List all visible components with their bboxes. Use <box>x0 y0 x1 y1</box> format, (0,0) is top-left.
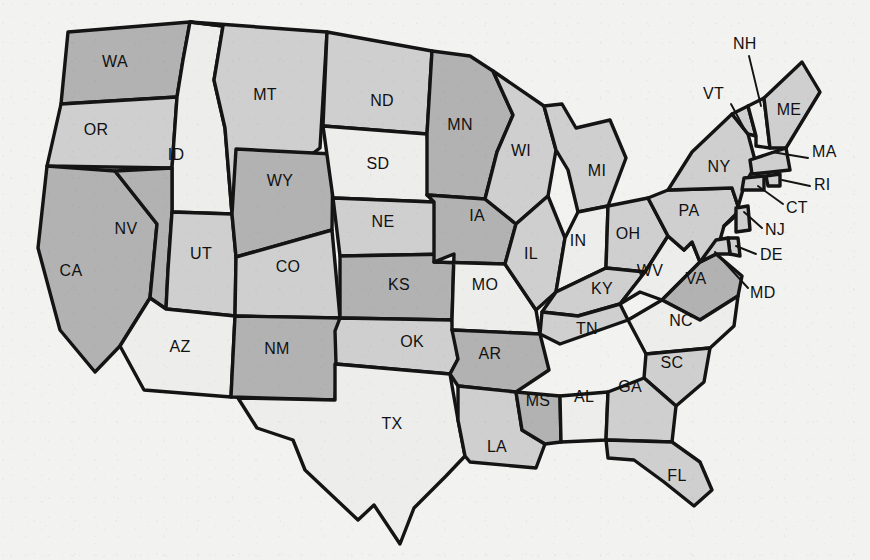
callout-label-ct: CT <box>786 199 808 216</box>
state-label-ar: AR <box>479 345 502 362</box>
state-label-ky: KY <box>591 280 613 297</box>
state-label-ne: NE <box>372 213 395 230</box>
callout-label-nj: NJ <box>765 221 785 238</box>
state-label-co: CO <box>276 258 301 275</box>
state-label-pa: PA <box>679 202 700 219</box>
state-label-or: OR <box>84 121 109 138</box>
state-shape-nj[interactable] <box>736 206 750 232</box>
state-shape-fl[interactable] <box>606 440 712 506</box>
state-label-mo: MO <box>472 276 498 293</box>
state-label-me: ME <box>777 101 802 118</box>
state-label-ms: MS <box>526 392 551 409</box>
state-label-wv: WV <box>637 262 663 279</box>
callout-label-ri: RI <box>814 176 831 193</box>
state-label-id: ID <box>168 146 185 163</box>
state-shape-or[interactable] <box>47 97 177 168</box>
callout-label-nh: NH <box>733 35 757 52</box>
state-label-ia: IA <box>469 207 485 224</box>
state-shape-ut[interactable] <box>166 212 236 316</box>
state-label-tx: TX <box>381 415 402 432</box>
state-label-ks: KS <box>388 276 410 293</box>
state-label-tn: TN <box>576 320 598 337</box>
state-label-va: VA <box>686 270 707 287</box>
us-map-svg: WAORIDCANVUTAZMTWYCONMNDSDNEKSOKTXMNIAMO… <box>0 0 870 560</box>
state-label-wy: WY <box>267 172 293 189</box>
leader-line-ri <box>782 180 810 186</box>
state-label-wi: WI <box>511 142 531 159</box>
state-label-ny: NY <box>708 158 731 175</box>
state-label-sc: SC <box>661 354 684 371</box>
state-shape-nm[interactable] <box>231 316 340 400</box>
callout-label-ma: MA <box>812 143 837 160</box>
state-label-mt: MT <box>253 86 277 103</box>
state-label-in: IN <box>570 232 587 249</box>
state-label-al: AL <box>574 388 594 405</box>
leader-line-ct <box>758 186 783 204</box>
state-label-nc: NC <box>669 312 693 329</box>
state-label-mn: MN <box>447 116 472 133</box>
state-label-la: LA <box>487 438 507 455</box>
state-label-nd: ND <box>370 92 394 109</box>
state-label-ga: GA <box>618 378 642 395</box>
state-label-az: AZ <box>169 338 190 355</box>
us-map-figure: WAORIDCANVUTAZMTWYCONMNDSDNEKSOKTXMNIAMO… <box>0 0 870 560</box>
state-label-ok: OK <box>400 333 424 350</box>
state-label-nm: NM <box>264 340 289 357</box>
state-shape-ri[interactable] <box>766 174 780 186</box>
state-label-mi: MI <box>588 162 606 179</box>
state-label-nv: NV <box>115 220 138 237</box>
callout-label-de: DE <box>760 246 783 263</box>
state-shape-ma[interactable] <box>750 148 790 174</box>
leader-line-nh <box>749 56 761 106</box>
state-shape-nd[interactable] <box>323 32 432 134</box>
state-label-oh: OH <box>616 225 641 242</box>
callout-label-md: MD <box>750 284 775 301</box>
state-label-ca: CA <box>60 262 83 279</box>
state-label-fl: FL <box>667 467 686 484</box>
state-label-wa: WA <box>102 53 128 70</box>
state-label-il: IL <box>524 245 538 262</box>
state-label-ut: UT <box>190 245 212 262</box>
callout-label-vt: VT <box>703 85 724 102</box>
state-label-sd: SD <box>367 155 390 172</box>
